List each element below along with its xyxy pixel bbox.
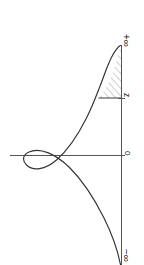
axis-label-origin: 0 — [123, 151, 131, 155]
axis-label-z: z — [123, 93, 132, 97]
axis-label-minus-infinity: −∞ — [121, 249, 131, 262]
shaded-tail-region — [99, 45, 122, 98]
axis-label-plus-infinity: +∞ — [121, 34, 131, 47]
normal-distribution-figure: +∞ z 0 −∞ — [0, 0, 144, 265]
